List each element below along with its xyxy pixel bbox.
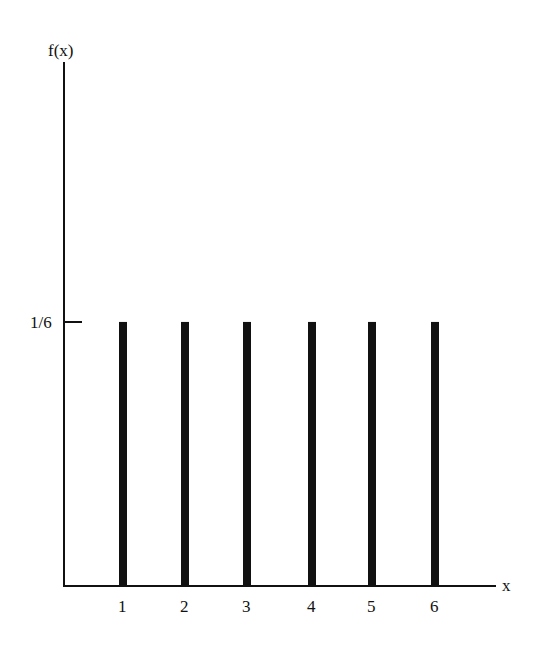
bar-1: [119, 322, 127, 586]
y-tick-label: 1/6: [30, 314, 52, 331]
bars: [119, 322, 439, 586]
x-tick-label-4: 4: [307, 598, 316, 615]
x-tick-label-3: 3: [242, 598, 251, 615]
chart-canvas: [0, 0, 538, 651]
bar-4: [308, 322, 316, 586]
y-axis-label: f(x): [48, 42, 73, 59]
x-tick-label-1: 1: [118, 598, 127, 615]
x-tick-label-2: 2: [180, 598, 189, 615]
bar-5: [368, 322, 376, 586]
x-tick-label-5: 5: [367, 598, 376, 615]
x-tick-label-6: 6: [430, 598, 439, 615]
bar-2: [181, 322, 189, 586]
x-axis-label: x: [502, 577, 511, 594]
bar-3: [243, 322, 251, 586]
bar-6: [431, 322, 439, 586]
